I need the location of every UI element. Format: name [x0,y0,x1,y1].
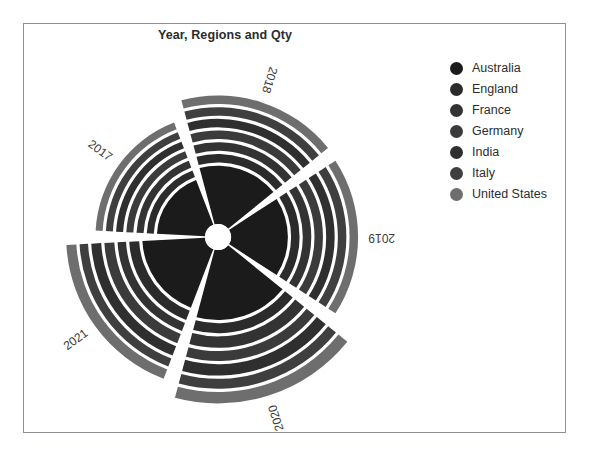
legend-item[interactable]: Italy [450,163,580,184]
legend-item[interactable]: Germany [450,121,580,142]
legend-swatch-icon [450,188,463,201]
legend-item[interactable]: Australia [450,58,580,79]
legend-swatch-icon [450,104,463,117]
legend-item-label: Australia [472,58,521,79]
year-axis-label: 2021 [61,326,91,353]
legend-swatch-icon [450,146,463,159]
year-axis-label: 2020 [265,403,287,433]
legend-item-label: England [472,79,518,100]
legend-item[interactable]: England [450,79,580,100]
legend-item-label: United States [472,184,547,205]
sector-group [66,95,358,403]
ring-segment[interactable] [157,180,213,236]
year-axis-label: 2017 [85,137,115,164]
legend-swatch-icon [450,83,463,96]
legend: AustraliaEnglandFranceGermanyIndiaItalyU… [450,58,580,205]
legend-swatch-icon [450,125,463,138]
chart-screenshot: Year, Regions and Qty 201720182019202020… [0,0,589,456]
legend-item-label: France [472,100,511,121]
year-axis-label: 2018 [259,65,281,95]
legend-swatch-icon [450,167,463,180]
legend-item[interactable]: India [450,142,580,163]
legend-item-label: India [472,142,499,163]
legend-item[interactable]: France [450,100,580,121]
legend-swatch-icon [450,62,463,75]
center-hub [205,224,231,250]
polar-chart-area: 20172018201920202021 [23,23,443,433]
legend-item[interactable]: United States [450,184,580,205]
legend-item-label: Germany [472,121,523,142]
year-axis-label: 2019 [368,231,395,245]
polar-chart-svg: 20172018201920202021 [23,23,443,433]
legend-item-label: Italy [472,163,495,184]
